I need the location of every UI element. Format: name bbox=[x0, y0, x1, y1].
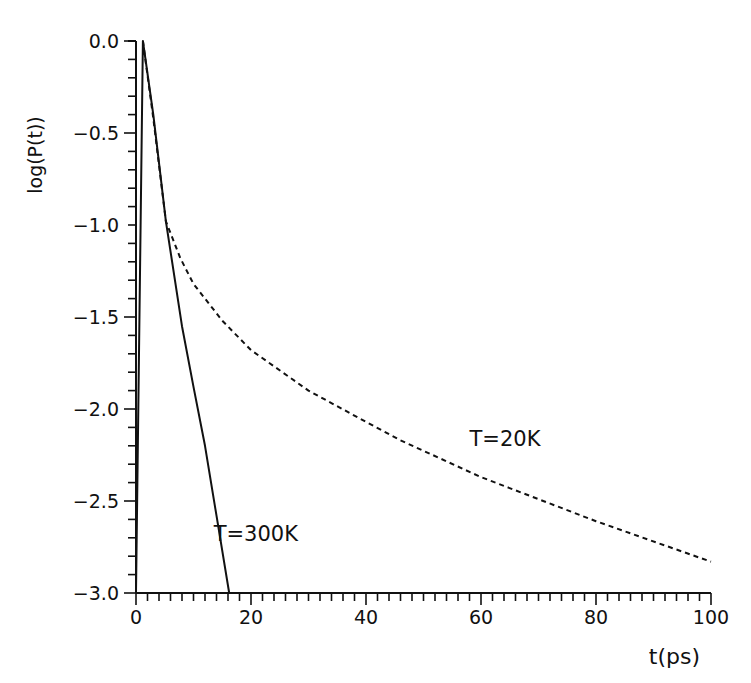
y-tick-label: −2.0 bbox=[73, 398, 119, 420]
x-tick-label: 0 bbox=[130, 606, 142, 628]
y-tick-label: −3.0 bbox=[73, 582, 119, 604]
x-tick-label: 80 bbox=[584, 606, 608, 628]
y-tick-label: −1.0 bbox=[73, 214, 119, 236]
x-axis-label: t(ps) bbox=[649, 644, 700, 669]
axis-ticks bbox=[124, 41, 711, 605]
curve-annotations: T=300KT=20K bbox=[213, 427, 542, 547]
decay-chart: 0204060801000.0−0.5−1.0−1.5−2.0−2.5−3.0 … bbox=[0, 0, 751, 683]
y-tick-label: −0.5 bbox=[73, 122, 119, 144]
data-series bbox=[136, 41, 711, 593]
y-axis-label: log(P(t)) bbox=[24, 116, 46, 194]
curve-label: T=20K bbox=[469, 427, 542, 451]
x-tick-label: 60 bbox=[469, 606, 493, 628]
y-tick-label: 0.0 bbox=[89, 30, 119, 52]
x-tick-label: 20 bbox=[239, 606, 263, 628]
series-line-dashed bbox=[143, 41, 711, 562]
y-tick-label: −2.5 bbox=[73, 490, 119, 512]
y-tick-label: −1.5 bbox=[73, 306, 119, 328]
series-line-solid bbox=[136, 41, 229, 593]
x-tick-label: 40 bbox=[354, 606, 378, 628]
x-tick-label: 100 bbox=[693, 606, 729, 628]
tick-labels: 0204060801000.0−0.5−1.0−1.5−2.0−2.5−3.0 bbox=[73, 30, 729, 628]
curve-label: T=300K bbox=[213, 522, 300, 546]
